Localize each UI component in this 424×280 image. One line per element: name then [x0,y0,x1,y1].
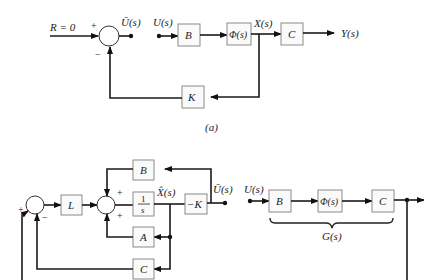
svg-text:+: + [117,187,123,198]
caption-a: (a) [205,121,218,134]
plus-sign: + [91,20,97,31]
svg-text:K: K [187,91,196,103]
reference-input-label: R = 0 [49,21,76,33]
svg-text:−K: −K [187,198,202,210]
svg-text:1: 1 [141,194,146,204]
svg-text:B: B [276,195,283,207]
minus-sign: − [95,49,101,60]
x-hat-label: X̂(s) [156,186,176,199]
plant-brace [270,218,393,228]
summing-junction [99,26,119,46]
u-bar-terminal [129,34,133,38]
svg-text:C: C [140,263,148,275]
diagram-a: R = 0 + − Ū(s) U(s) B Φ(s) X(s) C Y(s) K… [49,16,359,134]
state-label: X(s) [253,17,273,30]
svg-text:C: C [288,28,296,40]
u-bar-label-b: Ū(s) [213,183,233,196]
svg-text:A: A [139,231,147,243]
svg-text:C: C [379,195,387,207]
observer-sum-2 [97,196,115,214]
u-label: U(s) [153,16,173,29]
u-bar-label: Ū(s) [121,16,141,29]
plant-label: G(s) [322,230,342,243]
svg-text:B: B [185,29,192,41]
u-bar-terminal-b [223,201,227,205]
output-label: Y(s) [341,27,359,40]
svg-text:−: − [42,212,48,223]
svg-text:B: B [140,164,147,176]
svg-text:Φ(s): Φ(s) [320,196,339,208]
diagram-b: + − L + + 1 s X̂(s) −K Ū(s) B A [18,160,424,280]
svg-text:Φ(s): Φ(s) [229,29,248,41]
block-diagram: R = 0 + − Ū(s) U(s) B Φ(s) X(s) C Y(s) K… [0,0,424,280]
svg-text:s: s [141,205,145,215]
svg-text:L: L [67,199,74,211]
u-label-b: U(s) [244,183,264,196]
svg-text:+: + [117,210,123,221]
